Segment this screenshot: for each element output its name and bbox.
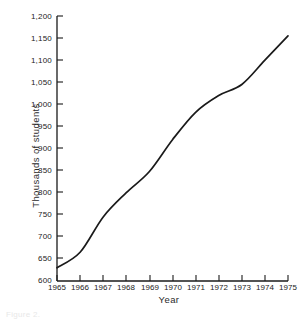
- plot-area: [0, 0, 305, 320]
- data-line-enrollment: [57, 36, 288, 268]
- x-tick-label: 1975: [273, 283, 303, 292]
- figure-caption: Figure 2.: [6, 310, 40, 319]
- figure-container: Thousands of students 1,200 1,150 1,100 …: [0, 0, 305, 320]
- x-axis-title: Year: [50, 294, 288, 305]
- x-axis-ticks: [57, 275, 288, 281]
- y-axis-ticks: [57, 16, 63, 258]
